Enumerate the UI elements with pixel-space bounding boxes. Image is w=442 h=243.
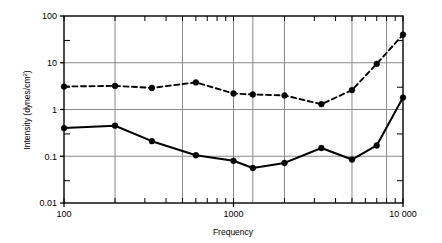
y-axis-title: Intensity (dynes/cm2) (22, 70, 32, 150)
x-axis-title: Frequency (213, 227, 254, 237)
chart-figure: 1001010.10.01 100100010 000 Frequency In… (0, 0, 442, 243)
y-tick-label: 100 (42, 11, 57, 21)
data-point (400, 32, 406, 38)
data-point (193, 152, 199, 158)
x-tick-label: 1000 (223, 209, 243, 219)
data-point (149, 85, 155, 91)
data-point (318, 145, 324, 151)
data-point (231, 91, 237, 97)
y-tick-label: 1 (52, 105, 57, 115)
data-point (374, 61, 380, 67)
data-point (318, 101, 324, 107)
data-point (374, 143, 380, 149)
data-point (282, 160, 288, 166)
data-point (400, 95, 406, 101)
y-axis-title-group: Intensity (dynes/cm2) (22, 70, 32, 150)
gridlines (64, 16, 403, 203)
data-point (250, 165, 256, 171)
y-axis-title-tail: ) (22, 70, 32, 73)
x-tick-label: 100 (56, 209, 71, 219)
intensity-frequency-line-chart: 1001010.10.01 100100010 000 Frequency In… (0, 0, 442, 243)
data-point (349, 157, 355, 163)
data-point (282, 93, 288, 99)
data-point (250, 92, 256, 98)
data-point (149, 138, 155, 144)
data-point (61, 125, 67, 131)
data-point (193, 80, 199, 86)
data-point (112, 123, 118, 129)
y-axis-title-base: Intensity (dynes/cm (22, 76, 32, 149)
data-point (112, 83, 118, 89)
y-tick-label: 0.01 (39, 198, 57, 208)
data-point (349, 87, 355, 93)
data-point (61, 84, 67, 90)
x-tick-label: 10 000 (389, 209, 417, 219)
y-tick-label: 0.1 (44, 152, 57, 162)
y-tick-label: 10 (47, 58, 57, 68)
data-point (231, 158, 237, 164)
